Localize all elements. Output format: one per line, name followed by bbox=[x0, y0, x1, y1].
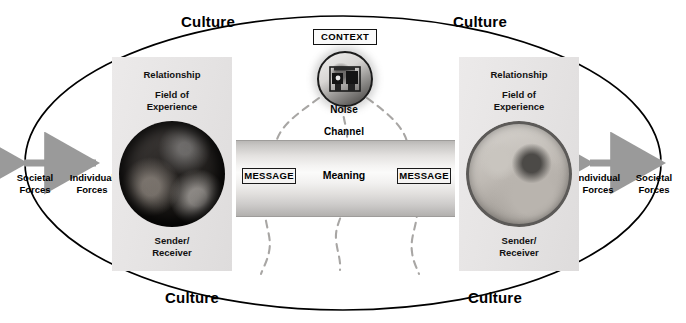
right-field-line2: Experience bbox=[494, 101, 545, 112]
left-field-line1: Field of bbox=[155, 89, 189, 100]
culture-label-bottom-right: Culture bbox=[455, 290, 535, 307]
societal-forces-right-line2: Forces bbox=[638, 184, 669, 195]
left-role-line1: Sender/ bbox=[155, 235, 190, 246]
culture-label-top-left: Culture bbox=[168, 14, 248, 31]
right-role-line1: Sender/ bbox=[502, 235, 537, 246]
right-sender-receiver-label: Sender/ Receiver bbox=[459, 235, 579, 259]
right-field-line1: Field of bbox=[502, 89, 536, 100]
left-relationship-label: Relationship bbox=[112, 69, 232, 81]
societal-forces-left-line1: Societal bbox=[17, 172, 53, 183]
individual-forces-right-line2: Forces bbox=[582, 184, 613, 195]
left-field-of-experience-label: Field of Experience bbox=[112, 89, 232, 113]
message-left-box: MESSAGE bbox=[242, 168, 296, 184]
societal-forces-right-label: Societal Forces bbox=[626, 172, 682, 197]
right-relationship-label: Relationship bbox=[459, 69, 579, 81]
noise-icon bbox=[317, 51, 373, 107]
generator-machine-icon bbox=[319, 53, 371, 105]
societal-forces-left-label: Societal Forces bbox=[7, 172, 63, 197]
communication-model-diagram: Culture Culture Culture Culture Societal… bbox=[0, 0, 686, 323]
message-right-box: MESSAGE bbox=[397, 168, 451, 184]
individual-forces-right-line1: Individual bbox=[576, 172, 620, 183]
right-field-of-experience-label: Field of Experience bbox=[459, 89, 579, 113]
individual-forces-left-line1: Individual bbox=[70, 172, 114, 183]
right-participant-photo bbox=[466, 121, 572, 227]
left-sender-receiver-label: Sender/ Receiver bbox=[112, 235, 232, 259]
channel-label: Channel bbox=[312, 126, 376, 137]
societal-forces-right-line1: Societal bbox=[636, 172, 672, 183]
left-participant-panel: Relationship Field of Experience Sender/… bbox=[112, 57, 232, 271]
right-participant-panel: Relationship Field of Experience Sender/… bbox=[459, 57, 579, 271]
noise-label: Noise bbox=[314, 104, 374, 115]
left-field-line2: Experience bbox=[147, 101, 198, 112]
individual-forces-left-line2: Forces bbox=[76, 184, 107, 195]
right-role-line2: Receiver bbox=[499, 247, 539, 258]
left-role-line2: Receiver bbox=[152, 247, 192, 258]
context-box: CONTEXT bbox=[313, 29, 377, 45]
culture-label-top-right: Culture bbox=[440, 14, 520, 31]
meaning-label: Meaning bbox=[313, 169, 375, 181]
left-participant-photo bbox=[119, 121, 225, 227]
culture-label-bottom-left: Culture bbox=[152, 290, 232, 307]
societal-forces-left-line2: Forces bbox=[19, 184, 50, 195]
